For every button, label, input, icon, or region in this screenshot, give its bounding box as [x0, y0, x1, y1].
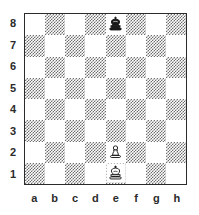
board-square-e8[interactable] — [106, 14, 126, 35]
board-square-f3[interactable] — [126, 120, 146, 141]
board-square-h1[interactable] — [166, 163, 186, 184]
rank-label-4: 4 — [4, 99, 22, 121]
board-square-a2[interactable] — [25, 142, 45, 163]
file-label-a: a — [24, 188, 44, 208]
board-square-f1[interactable] — [126, 163, 146, 184]
board-square-e4[interactable] — [106, 99, 126, 120]
board-square-h5[interactable] — [166, 78, 186, 99]
board-square-e3[interactable] — [106, 120, 126, 141]
rank-labels: 8 7 6 5 4 3 2 1 — [4, 13, 22, 185]
file-label-c: c — [65, 188, 85, 208]
board-square-b2[interactable] — [45, 142, 65, 163]
board-square-f6[interactable] — [126, 57, 146, 78]
board-square-a7[interactable] — [25, 35, 45, 56]
rank-label-1: 1 — [4, 164, 22, 186]
board-square-e7[interactable] — [106, 35, 126, 56]
board-square-b3[interactable] — [45, 120, 65, 141]
board-square-a8[interactable] — [25, 14, 45, 35]
board-square-d7[interactable] — [85, 35, 105, 56]
board-square-b8[interactable] — [45, 14, 65, 35]
rank-label-2: 2 — [4, 142, 22, 164]
board-square-g8[interactable] — [146, 14, 166, 35]
board-square-d4[interactable] — [85, 99, 105, 120]
board-square-a5[interactable] — [25, 78, 45, 99]
board-square-d5[interactable] — [85, 78, 105, 99]
board-square-e1[interactable] — [106, 163, 126, 184]
board-square-c4[interactable] — [65, 99, 85, 120]
board-square-h4[interactable] — [166, 99, 186, 120]
board-square-g3[interactable] — [146, 120, 166, 141]
board-square-c2[interactable] — [65, 142, 85, 163]
rank-label-3: 3 — [4, 121, 22, 143]
board-square-g2[interactable] — [146, 142, 166, 163]
board-square-h7[interactable] — [166, 35, 186, 56]
board-square-d6[interactable] — [85, 57, 105, 78]
board-square-b5[interactable] — [45, 78, 65, 99]
board-square-c8[interactable] — [65, 14, 85, 35]
board-square-f8[interactable] — [126, 14, 146, 35]
board-square-e2[interactable] — [106, 142, 126, 163]
board-square-b4[interactable] — [45, 99, 65, 120]
rank-label-5: 5 — [4, 78, 22, 100]
board-square-b1[interactable] — [45, 163, 65, 184]
board-square-g1[interactable] — [146, 163, 166, 184]
file-label-h: h — [167, 188, 187, 208]
board-square-g4[interactable] — [146, 99, 166, 120]
file-labels: a b c d e f g h — [24, 188, 187, 208]
white-pawn-icon[interactable] — [106, 143, 125, 162]
board-square-d1[interactable] — [85, 163, 105, 184]
board-square-c6[interactable] — [65, 57, 85, 78]
board-square-a4[interactable] — [25, 99, 45, 120]
board-square-g6[interactable] — [146, 57, 166, 78]
chess-diagram: 8 7 6 5 4 3 2 1 a b c d e f g h — [0, 0, 199, 215]
board-square-d3[interactable] — [85, 120, 105, 141]
board-square-f7[interactable] — [126, 35, 146, 56]
file-label-f: f — [126, 188, 146, 208]
rank-label-7: 7 — [4, 35, 22, 57]
board-square-f5[interactable] — [126, 78, 146, 99]
board-square-h6[interactable] — [166, 57, 186, 78]
file-label-b: b — [44, 188, 64, 208]
board-square-a3[interactable] — [25, 120, 45, 141]
file-label-g: g — [146, 188, 166, 208]
board-square-b6[interactable] — [45, 57, 65, 78]
board-square-d2[interactable] — [85, 142, 105, 163]
board-square-f2[interactable] — [126, 142, 146, 163]
file-label-e: e — [106, 188, 126, 208]
white-king-icon[interactable] — [106, 164, 125, 183]
board-square-g5[interactable] — [146, 78, 166, 99]
board-square-h8[interactable] — [166, 14, 186, 35]
board-square-g7[interactable] — [146, 35, 166, 56]
board-square-e5[interactable] — [106, 78, 126, 99]
board-square-c5[interactable] — [65, 78, 85, 99]
board-square-c3[interactable] — [65, 120, 85, 141]
board-square-b7[interactable] — [45, 35, 65, 56]
file-label-d: d — [85, 188, 105, 208]
board-square-e6[interactable] — [106, 57, 126, 78]
chess-board-grid — [25, 14, 186, 184]
rank-label-8: 8 — [4, 13, 22, 35]
black-king-icon[interactable] — [106, 15, 125, 34]
board-square-a6[interactable] — [25, 57, 45, 78]
chess-board — [24, 13, 187, 185]
board-square-h3[interactable] — [166, 120, 186, 141]
board-square-c1[interactable] — [65, 163, 85, 184]
board-square-a1[interactable] — [25, 163, 45, 184]
board-square-f4[interactable] — [126, 99, 146, 120]
rank-label-6: 6 — [4, 56, 22, 78]
board-square-c7[interactable] — [65, 35, 85, 56]
board-square-h2[interactable] — [166, 142, 186, 163]
board-square-d8[interactable] — [85, 14, 105, 35]
